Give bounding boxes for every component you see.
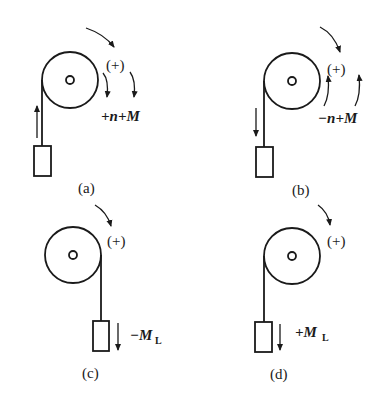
pulley-hub: [66, 76, 74, 84]
quantity-subscript: L: [322, 332, 329, 343]
quantity-label: +M: [295, 324, 318, 340]
quantity-label: −M: [130, 327, 153, 343]
load-box: [256, 147, 273, 177]
pulley-hub: [69, 251, 77, 259]
positive-label: (+): [106, 57, 124, 74]
pulley-wheel: [45, 227, 101, 283]
speed-arrow: [324, 76, 329, 106]
quantity-label: −n+M: [318, 110, 358, 126]
positive-direction-arrow: [320, 27, 340, 52]
speed-arrow: [103, 73, 108, 97]
positive-label: (+): [327, 61, 345, 78]
positive-label: (+): [107, 233, 125, 250]
pulley-wheel: [42, 52, 98, 108]
pulley-diagram: (+) +n+M (a) (+) −n+M (b) (+) −M L (c): [0, 0, 389, 411]
panel-caption: (d): [270, 366, 288, 383]
panel-caption: (c): [82, 365, 99, 382]
quantity-label: +n+M: [101, 108, 140, 124]
panel-d: (+) +M L (d): [255, 205, 345, 383]
load-box: [93, 321, 109, 351]
panel-a: (+) +n+M (a): [34, 28, 140, 197]
load-box: [255, 322, 272, 352]
quantity-subscript: L: [155, 335, 162, 346]
panel-b: (+) −n+M (b): [256, 27, 360, 199]
positive-label: (+): [327, 233, 345, 250]
load-box: [34, 146, 51, 176]
panel-c: (+) −M L (c): [45, 205, 162, 382]
torque-arrow: [130, 72, 135, 97]
pulley-hub: [288, 77, 296, 85]
pulley-wheel: [264, 53, 320, 109]
positive-direction-arrow: [86, 28, 114, 47]
positive-direction-arrow: [95, 205, 111, 226]
positive-direction-arrow: [318, 205, 330, 225]
panel-caption: (b): [292, 182, 310, 199]
panel-caption: (a): [78, 180, 95, 197]
torque-arrow: [355, 75, 360, 106]
pulley-wheel: [264, 228, 320, 284]
pulley-hub: [288, 252, 296, 260]
